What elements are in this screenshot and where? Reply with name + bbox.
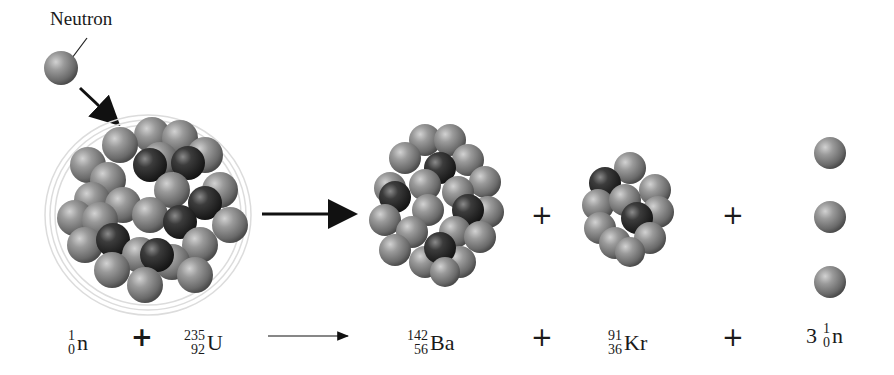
atomic-number: 92 bbox=[191, 343, 205, 357]
atomic-number: 56 bbox=[414, 343, 428, 357]
reactant-uranium: 23592 U bbox=[184, 322, 223, 357]
krypton-91-nucleus bbox=[582, 152, 674, 267]
mass-number: 1 bbox=[68, 329, 75, 343]
element-symbol: Ba bbox=[430, 332, 454, 354]
mass-number: 1 bbox=[823, 322, 830, 336]
illustration-plus-sign: + bbox=[722, 200, 744, 230]
mass-number: 142 bbox=[407, 329, 428, 343]
coefficient: 3 bbox=[806, 325, 817, 347]
reactant-neutron: 10 n bbox=[68, 322, 88, 357]
atomic-number: 0 bbox=[823, 336, 830, 350]
free-neutron-icon bbox=[814, 266, 846, 298]
element-symbol: U bbox=[207, 332, 223, 354]
mass-number: 235 bbox=[184, 329, 205, 343]
fission-illustration bbox=[0, 0, 894, 375]
element-symbol: Kr bbox=[624, 332, 647, 354]
product-neutrons: 3 10 n bbox=[806, 322, 843, 350]
free-neutrons bbox=[814, 137, 846, 298]
barium-142-nucleus bbox=[369, 124, 504, 287]
product-krypton: 9136 Kr bbox=[608, 322, 647, 357]
equation-plus-sign: + bbox=[722, 322, 744, 352]
atomic-number: 0 bbox=[68, 343, 75, 357]
element-symbol: n bbox=[832, 325, 843, 347]
neutron-label: Neutron bbox=[50, 8, 112, 30]
element-symbol: n bbox=[77, 332, 88, 354]
free-neutron-icon bbox=[814, 201, 846, 233]
incoming-arrow-icon bbox=[80, 88, 116, 122]
uranium-235-nucleus bbox=[57, 117, 248, 303]
mass-number: 91 bbox=[608, 329, 622, 343]
atomic-number: 36 bbox=[608, 343, 622, 357]
equation-plus-sign: + bbox=[131, 322, 153, 352]
illustration-plus-sign: + bbox=[531, 200, 553, 230]
free-neutron-icon bbox=[814, 137, 846, 169]
incoming-neutron-icon bbox=[44, 51, 78, 85]
product-barium: 14256 Ba bbox=[407, 322, 454, 357]
equation-plus-sign: + bbox=[531, 322, 553, 352]
